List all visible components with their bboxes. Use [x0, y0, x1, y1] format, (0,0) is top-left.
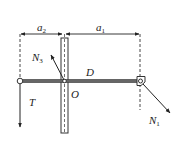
- label-T: T: [29, 96, 36, 108]
- statics-diagram: a2 a1 N3 D O T N1: [0, 0, 183, 144]
- label-D: D: [85, 66, 94, 78]
- pin-O: [63, 79, 67, 83]
- horizontal-beam-D: [20, 80, 140, 83]
- label-a2: a2: [37, 21, 47, 35]
- label-a1: a1: [96, 21, 106, 35]
- label-N3: N3: [31, 51, 43, 65]
- label-N1: N1: [148, 114, 160, 128]
- right-pin: [139, 79, 143, 83]
- force-N1-arrow: [143, 84, 170, 113]
- left-pin: [17, 78, 23, 84]
- label-O: O: [71, 88, 79, 100]
